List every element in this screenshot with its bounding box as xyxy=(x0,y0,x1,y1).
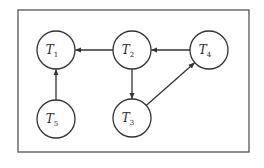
node-circle xyxy=(190,31,228,69)
edge-t3-to-t4 xyxy=(146,63,194,106)
node-circle xyxy=(113,31,151,69)
node-t5: T5 xyxy=(37,100,75,138)
node-t3: T3 xyxy=(113,99,151,137)
node-circle xyxy=(37,31,75,69)
node-t4: T4 xyxy=(190,31,228,69)
precedence-graph: T1T2T4T5T3 xyxy=(0,0,264,168)
node-circle xyxy=(113,99,151,137)
node-t1: T1 xyxy=(37,31,75,69)
node-circle xyxy=(37,100,75,138)
node-t2: T2 xyxy=(113,31,151,69)
